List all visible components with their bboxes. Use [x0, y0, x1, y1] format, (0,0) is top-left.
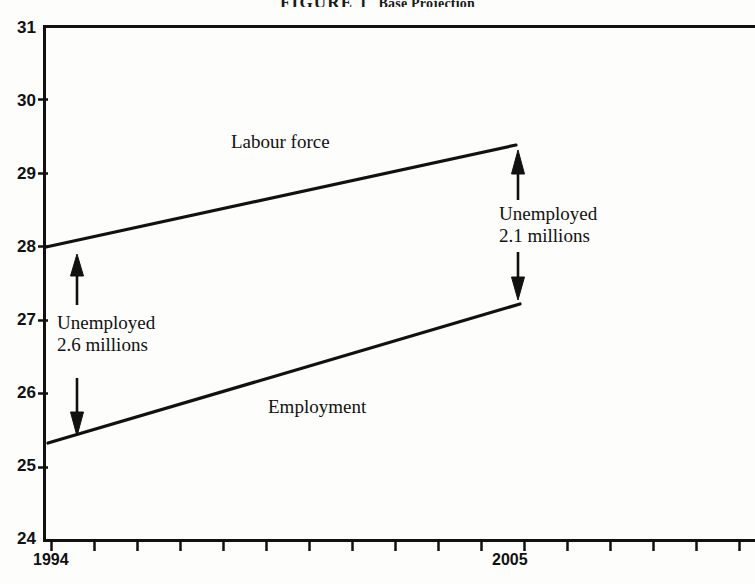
- annotation-arrow-right-up: [512, 150, 525, 200]
- series-line-labour-force: [46, 145, 516, 247]
- series-label-employment: Employment: [268, 396, 366, 418]
- annotation-left-unemployed: Unemployed 2.6 millions: [57, 312, 155, 356]
- plot-area: [0, 0, 755, 584]
- annotation-arrow-right-down: [512, 252, 525, 300]
- annotation-arrow-left-up: [71, 254, 84, 305]
- series-label-labour-force: Labour force: [231, 131, 330, 153]
- figure-container: FIGURE 1Base Projection 31 30 29 28 27 2…: [0, 0, 755, 584]
- annotation-right-line1: Unemployed: [499, 203, 597, 225]
- annotation-right-unemployed: Unemployed 2.1 millions: [499, 203, 597, 247]
- annotation-right-line2: 2.1 millions: [499, 225, 597, 247]
- annotation-arrow-left-down: [71, 378, 84, 436]
- annotation-left-line1: Unemployed: [57, 312, 155, 334]
- axis-lines: [43, 26, 755, 541]
- annotation-left-line2: 2.6 millions: [57, 334, 155, 356]
